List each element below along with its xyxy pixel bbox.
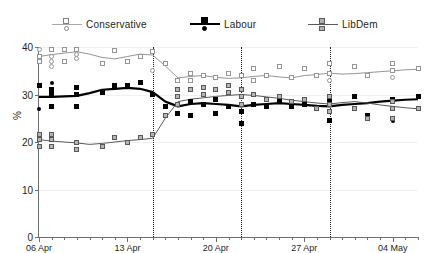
data-point-labour [302,102,307,107]
data-point-conservative [390,68,395,73]
data-point-labour [277,99,282,104]
data-point-conservative [327,71,332,76]
data-point-conservative [302,66,307,71]
labour-marker-icon [190,16,220,32]
data-point-conservative [327,78,332,83]
data-point-labour [125,83,130,88]
x-tick-minor [140,237,141,240]
x-tick-minor [342,237,343,240]
data-point-libdem [213,87,218,92]
data-point-libdem [390,99,395,104]
data-point-libdem [251,92,256,97]
data-point-conservative [213,75,218,80]
x-tick-minor [241,237,242,240]
x-tick-minor [90,237,91,240]
y-tick-label: 20 [22,137,33,148]
legend-item-conservative[interactable]: Conservative [52,14,147,34]
data-point-labour [251,102,256,107]
data-point-labour [239,121,244,126]
conservative-marker-icon [52,16,82,32]
data-point-conservative [251,78,256,83]
data-point-libdem [226,90,231,95]
x-tick-minor [317,237,318,240]
plot-area: 010203040 06 Apr13 Apr20 Apr27 Apr04 May [39,47,418,237]
data-point-conservative [352,64,357,69]
legend-label-libdem: LibDem [342,19,378,30]
data-point-conservative [150,49,155,54]
x-tick-minor [254,237,255,240]
data-point-conservative [49,47,54,52]
x-tick-label: 27 Apr [291,243,317,253]
data-point-libdem [327,109,332,114]
data-point-conservative [188,71,193,76]
data-point-labour [213,97,218,102]
x-tick-minor [153,237,154,240]
y-tick-label: 0 [27,232,33,243]
x-tick-minor [405,237,406,240]
data-point-libdem [327,102,332,107]
data-point-conservative [188,78,193,83]
data-point-libdem [327,94,332,99]
x-tick-label: 13 Apr [114,243,140,253]
data-point-libdem [239,102,244,107]
x-tick-minor [178,237,179,240]
data-point-libdem [74,147,79,152]
data-point-labour [188,113,193,118]
legend-item-labour[interactable]: Labour [190,14,256,34]
x-tick-minor [191,237,192,240]
data-point-libdem [74,140,79,145]
data-point-libdem [201,92,206,97]
data-point-conservative [125,59,130,64]
data-point-libdem [416,106,421,111]
data-point-libdem [289,99,294,104]
data-point-conservative [365,73,370,78]
data-point-libdem [365,116,370,121]
data-point-libdem [226,83,231,88]
data-point-libdem [175,102,180,107]
data-point-libdem [100,144,105,149]
data-point-conservative [49,59,54,64]
data-point-labour [175,111,180,116]
x-tick-minor [165,237,166,240]
x-tick-minor [203,237,204,240]
data-point-labour [37,107,41,111]
data-point-conservative [327,61,332,66]
data-point-labour [289,104,294,109]
data-point-conservative [264,73,269,78]
legend-item-libdem[interactable]: LibDem [308,14,378,34]
data-point-conservative [277,64,282,69]
data-point-libdem [112,135,117,140]
data-point-conservative [138,54,143,59]
data-point-conservative [37,47,42,52]
x-tick-minor [292,237,293,240]
y-tick-label: 40 [22,42,33,53]
x-tick-label: 06 Apr [26,243,52,253]
x-tick-minor [77,237,78,240]
y-axis-title: % [12,111,23,120]
data-point-conservative [49,64,54,69]
data-point-labour [416,94,421,99]
data-point-conservative [37,59,42,64]
data-point-libdem [150,132,155,137]
data-point-libdem [302,97,307,102]
data-point-labour [138,80,143,85]
data-point-labour [264,104,269,109]
data-point-labour [49,104,54,109]
x-tick-major [393,237,394,242]
data-point-labour [100,90,105,95]
data-point-conservative [251,66,256,71]
x-tick-label: 20 Apr [203,243,229,253]
data-point-conservative [62,47,67,52]
data-point-labour [74,92,79,97]
data-point-libdem [314,106,319,111]
x-tick-minor [418,237,419,240]
data-point-labour [188,99,193,104]
data-point-conservative [314,73,319,78]
data-point-labour [327,118,332,123]
data-point-labour [49,92,54,97]
chart-legend: Conservative Labour LibDem [0,14,434,34]
data-point-libdem [175,87,180,92]
x-tick-label: 04 May [378,243,408,253]
data-point-labour [37,83,42,88]
x-tick-minor [229,237,230,240]
